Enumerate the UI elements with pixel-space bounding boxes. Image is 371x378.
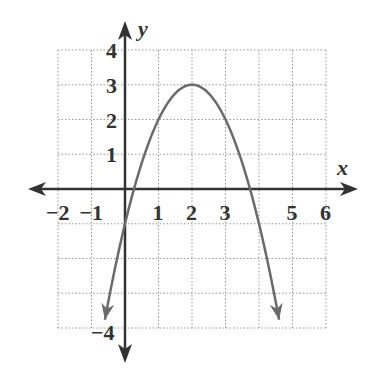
y-axis-label: y — [135, 16, 148, 41]
axes — [28, 21, 358, 363]
x-tick-label: −1 — [80, 200, 104, 225]
y-tick-label: 2 — [106, 108, 117, 133]
x-tick-label: 6 — [320, 200, 331, 225]
x-tick-label: 5 — [287, 200, 298, 225]
y-tick-label: 4 — [106, 38, 117, 63]
y-tick-label: −4 — [91, 320, 115, 345]
y-tick-label: 3 — [106, 73, 117, 98]
x-tick-label: −2 — [46, 200, 70, 225]
x-tick-label: 2 — [186, 200, 197, 225]
y-tick-label: 1 — [106, 142, 117, 167]
x-axis-label: x — [336, 155, 348, 180]
x-tick-label: 1 — [153, 200, 164, 225]
x-tick-label: 3 — [220, 200, 231, 225]
parabola-graph: −2−1123564321−4xy — [0, 0, 371, 378]
